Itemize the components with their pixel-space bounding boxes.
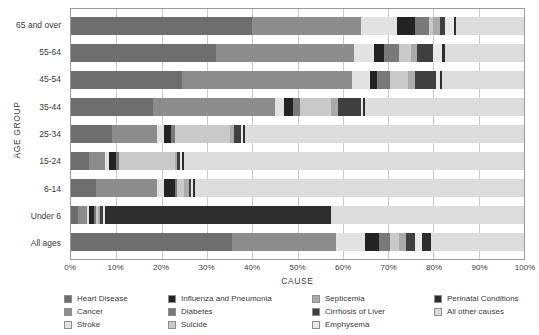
bar-row xyxy=(71,44,524,62)
legend-item-label: Heart Disease xyxy=(77,294,128,303)
bar-segment xyxy=(78,206,87,224)
legend-item-label: Suicide xyxy=(181,320,207,329)
legend-swatch-icon xyxy=(64,321,72,329)
legend-item[interactable]: All other causes xyxy=(434,305,534,318)
legend-item[interactable]: Diabetes xyxy=(168,305,312,318)
legend-item[interactable]: Suicide xyxy=(168,318,312,331)
bar-segment xyxy=(415,233,422,251)
bar-segment xyxy=(352,71,370,89)
legend-item-label: Stroke xyxy=(77,320,100,329)
legend-item-label: Perinatal Conditions xyxy=(447,294,519,303)
bar-segment xyxy=(157,179,164,197)
bar-row xyxy=(71,152,524,170)
bar-segment xyxy=(284,98,293,116)
y-axis-category-label: 55-64 xyxy=(0,43,66,61)
bar-segment xyxy=(445,44,524,62)
y-axis-category-label: 6-14 xyxy=(0,180,66,198)
x-axis-tick-label: 70% xyxy=(380,263,396,272)
bar-segment xyxy=(422,233,431,251)
bar-segment xyxy=(442,71,524,89)
x-axis-tick-label: 20% xyxy=(153,263,169,272)
bar-segment xyxy=(390,71,408,89)
x-axis-tick-label: 60% xyxy=(335,263,351,272)
bar-row xyxy=(71,17,524,35)
bar-segment xyxy=(71,233,232,251)
y-axis-category-label: 25-34 xyxy=(0,125,66,143)
bar-segment xyxy=(216,44,354,62)
x-axis-tick-label: 40% xyxy=(244,263,260,272)
bar-segment xyxy=(384,44,400,62)
bar-segment xyxy=(293,98,300,116)
legend-swatch-icon xyxy=(64,295,72,303)
bar-segment xyxy=(71,152,89,170)
bar-segment xyxy=(433,44,442,62)
bar-segment xyxy=(390,233,399,251)
legend-item[interactable]: Heart Disease xyxy=(64,292,168,305)
bar-segment xyxy=(431,233,524,251)
legend-item-label: Cancer xyxy=(77,307,103,316)
legend-swatch-icon xyxy=(168,321,176,329)
legend-swatch-icon xyxy=(64,308,72,316)
bar-segment xyxy=(153,98,275,116)
legend-item[interactable]: Cirrhosis of Liver xyxy=(312,305,434,318)
bar-segment xyxy=(415,17,429,35)
bar-segment xyxy=(105,206,332,224)
bar-segment xyxy=(234,125,241,143)
legend-swatch-icon xyxy=(312,321,320,329)
bar-segment xyxy=(96,179,157,197)
y-axis-tick-labels: 65 and over55-6445-5435-4425-3415-246-14… xyxy=(0,8,66,260)
bar-segment xyxy=(331,206,524,224)
bar-segment xyxy=(379,233,390,251)
legend-item[interactable]: Perinatal Conditions xyxy=(434,292,534,305)
legend-item-label: All other causes xyxy=(447,307,504,316)
legend-item-label: Septicemia xyxy=(325,294,365,303)
chart-legend: Heart DiseaseCancerStrokeInfluenza and P… xyxy=(64,292,534,332)
bar-segment xyxy=(408,71,415,89)
bar-segment xyxy=(184,152,524,170)
legend-item[interactable]: Cancer xyxy=(64,305,168,318)
bar-segment xyxy=(300,98,332,116)
bar-segment xyxy=(415,71,435,89)
bar-row xyxy=(71,71,524,89)
bar-segment xyxy=(377,71,391,89)
bar-segment xyxy=(275,98,284,116)
x-axis-tick-label: 50% xyxy=(289,263,305,272)
y-axis-category-label: Under 6 xyxy=(0,207,66,225)
x-axis-tick-label: 80% xyxy=(426,263,442,272)
legend-swatch-icon xyxy=(434,295,442,303)
bar-segment xyxy=(354,44,374,62)
legend-item[interactable]: Emphysema xyxy=(312,318,434,331)
bar-row xyxy=(71,98,524,116)
bar-row xyxy=(71,179,524,197)
legend-item[interactable]: Septicemia xyxy=(312,292,434,305)
bar-segment xyxy=(336,233,365,251)
legend-item[interactable]: Stroke xyxy=(64,318,168,331)
bar-segment xyxy=(182,71,352,89)
bar-segment xyxy=(71,17,252,35)
bar-segment xyxy=(71,98,153,116)
legend-item-label: Diabetes xyxy=(181,307,213,316)
bar-segment xyxy=(399,44,410,62)
x-axis-title: CAUSE xyxy=(70,276,525,286)
bar-segment xyxy=(365,233,379,251)
bar-segment xyxy=(71,206,78,224)
legend-swatch-icon xyxy=(434,308,442,316)
bar-segment xyxy=(365,98,524,116)
bar-segment xyxy=(245,125,524,143)
y-axis-category-label: 15-24 xyxy=(0,152,66,170)
bar-segment xyxy=(89,152,105,170)
legend-item-label: Emphysema xyxy=(325,320,369,329)
bar-segment xyxy=(433,17,440,35)
bar-segment xyxy=(417,44,433,62)
chart-root: AGE GROUP 65 and over55-6445-5435-4425-3… xyxy=(0,0,539,335)
y-axis-category-label: 65 and over xyxy=(0,16,66,34)
legend-item[interactable]: Influenza and Pneumonia xyxy=(168,292,312,305)
bar-segment xyxy=(119,152,176,170)
bar-segment xyxy=(370,71,377,89)
bar-segment xyxy=(399,233,406,251)
y-axis-category-label: 45-54 xyxy=(0,70,66,88)
legend-swatch-icon xyxy=(312,295,320,303)
y-axis-category-label: All ages xyxy=(0,234,66,252)
bar-segment xyxy=(232,233,336,251)
legend-item-label: Cirrhosis of Liver xyxy=(325,307,385,316)
